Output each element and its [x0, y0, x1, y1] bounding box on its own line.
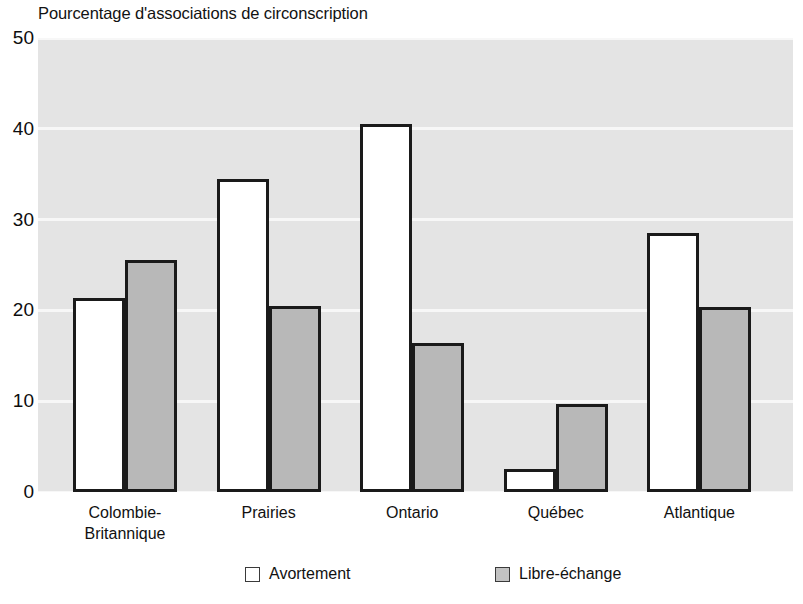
y-axis: 01020304050 [0, 0, 34, 604]
gridline [38, 218, 793, 221]
bar-avortement-2 [360, 124, 412, 492]
y-axis-tick-label: 50 [0, 28, 34, 47]
legend-item-avortement[interactable]: Avortement [245, 565, 351, 583]
x-axis-label-3: Québec [486, 502, 626, 523]
x-axis-label-line2: Britannique [55, 523, 195, 544]
chart-title: Pourcentage d'associations de circonscri… [38, 4, 368, 23]
bar-libre-1 [269, 306, 321, 492]
bar-avortement-4 [647, 233, 699, 492]
x-axis-label-1: Prairies [199, 502, 339, 523]
legend-item-label: Libre-échange [519, 565, 621, 583]
bar-chart-figure: Pourcentage d'associations de circonscri… [0, 0, 803, 604]
x-axis-label-line1: Colombie- [55, 502, 195, 523]
y-axis-tick-label: 20 [0, 300, 34, 319]
bar-libre-0 [125, 260, 177, 492]
bar-libre-2 [412, 343, 464, 492]
y-axis-tick-label: 40 [0, 119, 34, 138]
bar-libre-3 [556, 404, 608, 492]
x-axis-label-line1: Prairies [199, 502, 339, 523]
y-axis-tick-label: 10 [0, 391, 34, 410]
bar-avortement-3 [504, 469, 556, 492]
plot-area [38, 38, 793, 492]
x-axis-label-0: Colombie-Britannique [55, 502, 195, 544]
bar-avortement-0 [73, 298, 125, 492]
y-axis-tick-label: 0 [0, 482, 34, 501]
legend-item-libre-echange[interactable]: Libre-échange [495, 565, 621, 583]
x-axis-label-2: Ontario [342, 502, 482, 523]
chart-legend: AvortementLibre-échange [0, 565, 803, 595]
gridline [38, 38, 793, 40]
bar-libre-4 [699, 307, 751, 492]
gray-square-icon [495, 567, 510, 582]
white-square-icon [245, 567, 260, 582]
x-axis-label-line1: Atlantique [629, 502, 769, 523]
x-axis-label-line1: Québec [486, 502, 626, 523]
legend-item-label: Avortement [269, 565, 351, 583]
x-axis-label-4: Atlantique [629, 502, 769, 523]
y-axis-tick-label: 30 [0, 210, 34, 229]
bar-avortement-1 [217, 179, 269, 492]
gridline [38, 127, 793, 130]
x-axis-label-line1: Ontario [342, 502, 482, 523]
